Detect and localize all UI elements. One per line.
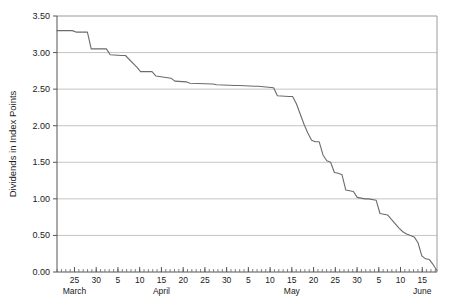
y-tick-label: 1.50	[32, 157, 50, 167]
x-tick-label: 25	[200, 275, 210, 285]
y-tick-label: 3.00	[32, 48, 50, 58]
x-tick-label: 5	[246, 275, 251, 285]
x-month-label: May	[284, 286, 301, 296]
gridlines	[57, 53, 437, 236]
x-tick-label: 5	[116, 275, 121, 285]
x-tick-label: 15	[418, 275, 428, 285]
x-tick-label: 30	[352, 275, 362, 285]
y-axis-ticks	[53, 16, 57, 272]
y-axis-title: Dividends in Index Points	[7, 90, 18, 197]
x-tick-label: 10	[265, 275, 275, 285]
x-tick-label: 5	[376, 275, 381, 285]
x-tick-label: 25	[70, 275, 80, 285]
y-tick-label: 2.00	[32, 121, 50, 131]
x-tick-label: 10	[135, 275, 145, 285]
x-month-label: March	[63, 286, 87, 296]
x-tick-label: 15	[157, 275, 167, 285]
y-axis-tick-labels: 0.000.501.001.502.002.503.003.50	[32, 11, 50, 277]
x-tick-label: 25	[331, 275, 341, 285]
x-month-label: April	[153, 286, 170, 296]
dividends-line-chart: 0.000.501.001.502.002.503.003.50 2530510…	[0, 0, 453, 305]
y-tick-label: 2.50	[32, 84, 50, 94]
x-axis-day-labels: 2530510152025305101520253051015	[70, 275, 428, 285]
x-month-label: June	[413, 286, 432, 296]
y-tick-label: 3.50	[32, 11, 50, 21]
x-tick-label: 20	[309, 275, 319, 285]
chart-page: 0.000.501.001.502.002.503.003.50 2530510…	[0, 0, 453, 305]
x-tick-label: 30	[91, 275, 101, 285]
x-axis-ticks	[57, 267, 435, 272]
x-tick-label: 30	[222, 275, 232, 285]
x-tick-label: 20	[178, 275, 188, 285]
x-tick-label: 10	[396, 275, 406, 285]
dividends-series-line	[57, 31, 437, 271]
x-axis-month-labels: MarchAprilMayJune	[63, 286, 432, 296]
y-tick-label: 1.00	[32, 194, 50, 204]
plot-frame	[57, 16, 437, 272]
y-tick-label: 0.50	[32, 230, 50, 240]
x-tick-label: 15	[287, 275, 297, 285]
y-tick-label: 0.00	[32, 267, 50, 277]
